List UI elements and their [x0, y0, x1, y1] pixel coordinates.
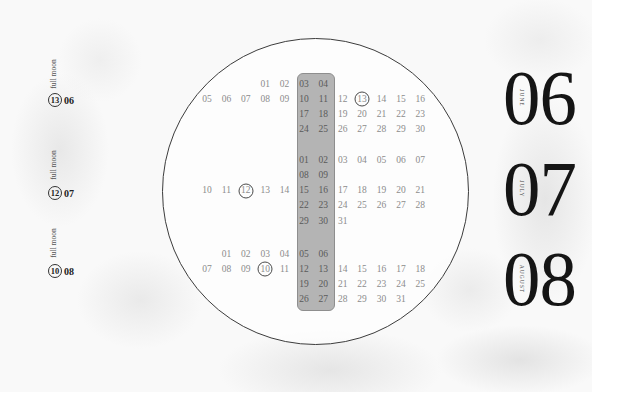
- day-number: 13: [260, 185, 270, 195]
- day-number: 27: [357, 124, 367, 134]
- empty-cell: [333, 77, 352, 92]
- day-number: 06: [396, 155, 406, 165]
- day-number: 06: [222, 94, 232, 104]
- week-row: 19202122232425: [197, 277, 430, 292]
- day-number: 14: [280, 185, 290, 195]
- day-number: 15: [357, 264, 367, 274]
- day-cell: 25: [352, 198, 371, 213]
- empty-cell: [255, 214, 274, 229]
- week-row: 24252627282930: [197, 122, 430, 137]
- day-cell: 02: [236, 247, 255, 262]
- day-number: 19: [299, 279, 309, 289]
- empty-cell: [197, 214, 216, 229]
- day-number: 29: [299, 216, 309, 226]
- day-number: 07: [202, 264, 212, 274]
- week-row: 010203040506: [197, 247, 430, 262]
- full-moon-label: full moon: [49, 228, 58, 257]
- day-cell: 13: [352, 92, 371, 107]
- day-cell: 18: [314, 107, 333, 122]
- day-number: 17: [396, 264, 406, 274]
- day-cell: 01: [255, 77, 274, 92]
- month-number-august: 08: [503, 240, 576, 318]
- empty-cell: [275, 292, 294, 307]
- day-cell: 17: [391, 262, 410, 277]
- day-cell: 21: [372, 107, 391, 122]
- day-number: 30: [319, 216, 329, 226]
- week-row: 050607080910111213141516: [197, 92, 430, 107]
- empty-cell: [352, 168, 371, 183]
- day-number: 04: [280, 249, 290, 259]
- day-cell: 19: [294, 277, 313, 292]
- day-number: 15: [299, 185, 309, 195]
- day-number: 03: [338, 155, 348, 165]
- empty-cell: [255, 107, 274, 122]
- day-cell: 15: [391, 92, 410, 107]
- day-cell: 03: [333, 153, 352, 168]
- empty-cell: [275, 122, 294, 137]
- day-number: 04: [319, 79, 329, 89]
- day-cell: 12: [236, 183, 255, 198]
- empty-cell: [391, 168, 410, 183]
- empty-cell: [372, 214, 391, 229]
- day-cell: 11: [217, 183, 236, 198]
- day-number: 12: [299, 264, 309, 274]
- day-cell: 22: [294, 198, 313, 213]
- day-number: 15: [396, 94, 406, 104]
- empty-cell: [255, 277, 274, 292]
- empty-cell: [255, 292, 274, 307]
- day-number: 20: [319, 279, 329, 289]
- day-cell: 08: [255, 92, 274, 107]
- day-number: 25: [416, 279, 426, 289]
- day-cell: 03: [294, 77, 313, 92]
- empty-cell: [197, 77, 216, 92]
- empty-cell: [197, 168, 216, 183]
- day-number: 23: [377, 279, 387, 289]
- day-number: 22: [299, 200, 309, 210]
- empty-cell: [217, 198, 236, 213]
- day-number: 22: [357, 279, 367, 289]
- day-cell: 24: [333, 198, 352, 213]
- day-number: 23: [416, 109, 426, 119]
- day-cell: 28: [372, 122, 391, 137]
- day-cell: 02: [275, 77, 294, 92]
- day-cell: 03: [255, 247, 274, 262]
- day-cell: 28: [333, 292, 352, 307]
- empty-cell: [411, 247, 430, 262]
- day-cell: 30: [372, 292, 391, 307]
- day-number: 08: [260, 94, 270, 104]
- day-number: 26: [338, 124, 348, 134]
- week-row: 262728293031: [197, 292, 430, 307]
- day-cell: 26: [372, 198, 391, 213]
- day-number: 01: [222, 249, 232, 259]
- month-name-august: AUGUST: [519, 265, 525, 293]
- full-moon-label: full moon: [49, 59, 58, 88]
- day-number: 20: [357, 109, 367, 119]
- empty-cell: [275, 168, 294, 183]
- week-row: 01020304050607: [197, 153, 430, 168]
- day-cell: 22: [391, 107, 410, 122]
- empty-cell: [236, 77, 255, 92]
- day-number: 24: [396, 279, 406, 289]
- day-cell: 16: [314, 183, 333, 198]
- day-cell: 10: [197, 183, 216, 198]
- day-number: 05: [202, 94, 212, 104]
- month-block-june: 0102030405060708091011121314151617181920…: [197, 77, 430, 138]
- empty-cell: [197, 107, 216, 122]
- day-cell: 19: [333, 107, 352, 122]
- day-cell: 06: [314, 247, 333, 262]
- full-moon-month: 06: [64, 95, 74, 106]
- day-number: 25: [357, 200, 367, 210]
- empty-cell: [275, 277, 294, 292]
- week-row: 293031: [197, 214, 430, 229]
- day-cell: 04: [275, 247, 294, 262]
- day-number: 28: [416, 200, 426, 210]
- day-cell: 19: [372, 183, 391, 198]
- day-number: 28: [377, 124, 387, 134]
- empty-cell: [217, 168, 236, 183]
- day-number: 23: [319, 200, 329, 210]
- day-number: 18: [416, 264, 426, 274]
- day-number: 29: [396, 124, 406, 134]
- empty-cell: [217, 214, 236, 229]
- empty-cell: [236, 153, 255, 168]
- full-moon-label: full moon: [49, 150, 58, 179]
